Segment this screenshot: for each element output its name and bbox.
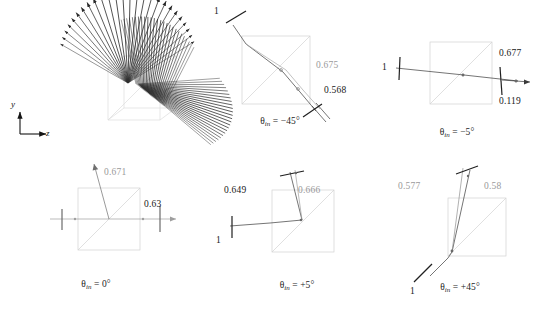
- value-input-label: 1: [216, 235, 221, 245]
- panel-theta-minus-45: 1 0.675 0.568 θin = −45°: [208, 0, 358, 150]
- ray-secondary: [246, 44, 320, 109]
- ray-diagram-zero: [48, 162, 218, 287]
- cube-outline: [242, 36, 310, 104]
- value-up-label: 0.671: [104, 167, 126, 177]
- caption-theta-zero: θin = 0°: [16, 279, 176, 291]
- cube-outline: [430, 42, 492, 104]
- ray-input: [230, 220, 302, 226]
- value-right-label: 0.666: [298, 185, 320, 195]
- value-left-label: 0.649: [224, 185, 246, 195]
- axis-label-z: z: [46, 128, 50, 138]
- panel-theta-zero: 0.671 0.63 θin = 0°: [48, 162, 218, 312]
- caption-theta-plus-5: θin = +5°: [217, 280, 377, 292]
- caption-theta-plus-45: θin = +45°: [380, 282, 540, 294]
- cube-outline: [272, 190, 334, 252]
- axis-indicator-svg: [12, 100, 58, 142]
- figure-root: y z: [0, 0, 548, 320]
- caption-theta-minus-5: θin = −5°: [377, 127, 537, 139]
- ray-diagram-minus-5: [378, 24, 548, 134]
- tick-marks: [232, 171, 304, 238]
- tick-marks: [414, 166, 478, 282]
- caption-theta-value: = +45°: [450, 282, 479, 292]
- tick-marks: [399, 57, 502, 95]
- panel-theta-plus-5: 0.649 0.666 1 θin = +5°: [222, 162, 392, 317]
- value-top-label: 0.677: [499, 48, 521, 58]
- caption-theta-value: = +5°: [290, 280, 315, 290]
- value-out-label: 0.568: [324, 85, 346, 95]
- panel-theta-plus-45: 0.577 0.58 1 θin = +45°: [392, 162, 548, 320]
- value-input-label: 1: [214, 6, 219, 16]
- value-right-label: 0.58: [484, 181, 501, 191]
- caption-theta-minus-45: θin = −45°: [200, 116, 360, 128]
- caption-theta-value: = −45°: [270, 116, 299, 126]
- caption-theta-value: = 0°: [91, 279, 110, 289]
- caption-theta-value: = −5°: [450, 127, 475, 137]
- cube-outline: [448, 198, 506, 256]
- ray-through: [246, 44, 316, 111]
- ray-diagram-plus-5: [222, 162, 392, 287]
- panel-theta-minus-5: 1 0.677 0.119 θin = −5°: [378, 24, 548, 154]
- value-left-label: 0.577: [398, 181, 420, 191]
- value-bottom-label: 0.119: [499, 96, 521, 106]
- axis-label-y: y: [11, 99, 15, 109]
- value-mid-label: 0.675: [316, 60, 338, 70]
- value-input-label: 1: [382, 62, 387, 72]
- ray-through: [50, 217, 176, 222]
- ray-input: [233, 25, 246, 44]
- value-right-label: 0.63: [144, 199, 161, 209]
